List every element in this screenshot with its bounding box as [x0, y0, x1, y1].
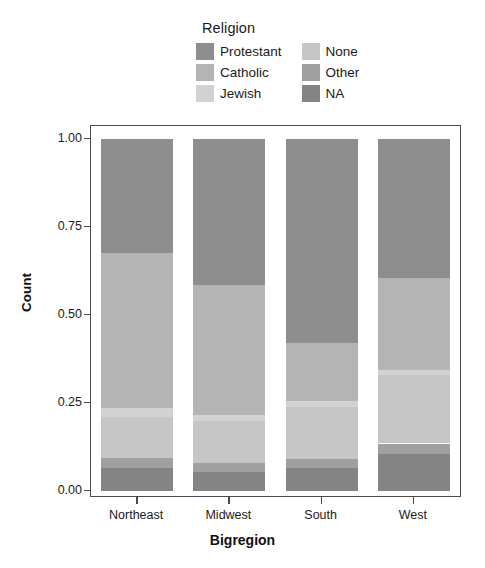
bar-segment-midwest-na — [193, 472, 265, 491]
bar-segment-west-protestant — [378, 139, 450, 278]
bar-segment-west-catholic — [378, 278, 450, 370]
bar-segment-west-none — [378, 375, 450, 444]
legend-swatch-jewish — [196, 85, 214, 102]
y-axis-tick-labels: 0.000.250.500.751.00 — [38, 125, 82, 497]
y-tick-mark — [84, 402, 90, 403]
plot-area — [90, 125, 461, 497]
bar-segment-south-other — [286, 459, 358, 468]
bar-segment-south-na — [286, 468, 358, 491]
bar-segment-west-na — [378, 454, 450, 491]
legend-columns: Protestant Catholic Jewish None — [196, 42, 396, 103]
y-tick-label-0-75: 0.75 — [58, 219, 82, 233]
x-tick-label-midwest: Midwest — [205, 508, 251, 522]
x-tick-mark — [136, 497, 137, 504]
bar-segment-south-jewish — [286, 401, 358, 406]
y-tick-label-0-25: 0.25 — [58, 395, 82, 409]
legend-label-protestant: Protestant — [220, 45, 282, 59]
legend-item-na: NA — [302, 84, 360, 103]
legend-item-none: None — [302, 42, 360, 61]
legend-swatch-other — [302, 64, 320, 81]
y-tick-mark — [84, 226, 90, 227]
bar-segment-midwest-jewish — [193, 415, 265, 420]
bar-segment-west-other — [378, 444, 450, 455]
y-tick-label-0-50: 0.50 — [58, 307, 82, 321]
y-tick-label-1-00: 1.00 — [58, 131, 82, 145]
legend-label-other: Other — [326, 66, 360, 80]
bar-segment-midwest-catholic — [193, 285, 265, 415]
bars-container — [91, 126, 460, 496]
x-tick-mark — [228, 497, 229, 504]
bar-segment-northeast-jewish — [101, 408, 173, 417]
x-tick-label-west: West — [399, 508, 427, 522]
bar-south — [286, 139, 358, 491]
y-axis-label: Count — [19, 253, 34, 333]
bar-northeast — [101, 139, 173, 491]
y-tick-mark — [84, 314, 90, 315]
bar-segment-south-catholic — [286, 343, 358, 401]
bar-segment-northeast-protestant — [101, 139, 173, 253]
legend-column-right: None Other NA — [302, 42, 360, 103]
legend-swatch-protestant — [196, 43, 214, 60]
bar-west — [378, 139, 450, 491]
legend-item-protestant: Protestant — [196, 42, 282, 61]
bar-segment-northeast-na — [101, 468, 173, 491]
bar-segment-northeast-catholic — [101, 253, 173, 408]
bar-segment-west-jewish — [378, 370, 450, 375]
x-tick-label-northeast: Northeast — [109, 508, 163, 522]
x-tick-mark — [413, 497, 414, 504]
legend-title: Religion — [202, 20, 396, 36]
legend-label-none: None — [326, 45, 358, 59]
bar-midwest — [193, 139, 265, 491]
legend-label-na: NA — [326, 87, 345, 101]
legend-label-catholic: Catholic — [220, 66, 269, 80]
legend-label-jewish: Jewish — [220, 87, 261, 101]
legend-swatch-catholic — [196, 64, 214, 81]
bar-segment-northeast-none — [101, 417, 173, 457]
legend-item-jewish: Jewish — [196, 84, 282, 103]
y-tick-label-0-00: 0.00 — [58, 483, 82, 497]
stacked-bar-chart-figure: Religion Protestant Catholic Jewish — [0, 0, 485, 568]
bar-segment-midwest-none — [193, 421, 265, 463]
legend-item-catholic: Catholic — [196, 63, 282, 82]
bar-segment-south-none — [286, 407, 358, 460]
legend-column-left: Protestant Catholic Jewish — [196, 42, 282, 103]
bar-segment-northeast-other — [101, 458, 173, 469]
bar-segment-midwest-protestant — [193, 139, 265, 285]
chart-legend: Religion Protestant Catholic Jewish — [196, 20, 396, 103]
x-tick-label-south: South — [304, 508, 337, 522]
x-axis-label: Bigregion — [0, 532, 485, 548]
legend-swatch-na — [302, 85, 320, 102]
bar-segment-midwest-other — [193, 463, 265, 472]
x-tick-mark — [321, 497, 322, 504]
legend-item-other: Other — [302, 63, 360, 82]
y-tick-mark — [84, 138, 90, 139]
y-tick-mark — [84, 490, 90, 491]
legend-swatch-none — [302, 43, 320, 60]
bar-segment-south-protestant — [286, 139, 358, 343]
